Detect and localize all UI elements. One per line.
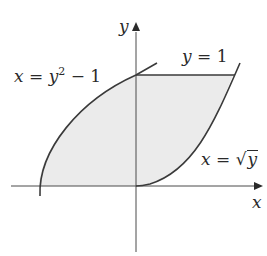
top-line-label: y = 1	[182, 48, 228, 65]
x-axis-label: x	[252, 194, 262, 211]
sqrt-icon: √	[236, 149, 247, 169]
y-axis-label: y	[119, 18, 129, 35]
y-axis-arrow-icon	[132, 22, 140, 31]
diagram-graphic	[0, 0, 267, 256]
diagram-canvas: y x y = 1 x = y2 − 1 x = √y	[0, 0, 267, 256]
left-curve-label: x = y2 − 1	[14, 68, 101, 85]
x-axis-arrow-icon	[254, 182, 263, 190]
right-curve-label: x = √y	[201, 150, 258, 168]
